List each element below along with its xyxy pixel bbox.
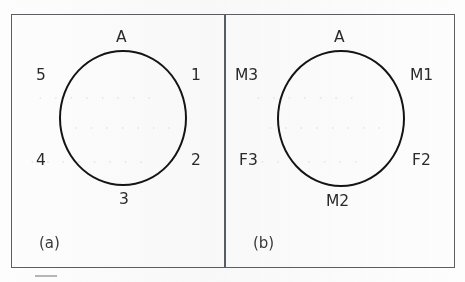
label-a-upper-right: 1 <box>191 68 201 84</box>
label-b-bottom: M2 <box>326 194 349 210</box>
label-a-upper-left: 5 <box>36 68 46 84</box>
label-a-lower-right: 2 <box>191 153 201 169</box>
panel-a: A 1 2 3 4 5 (a) <box>11 14 225 268</box>
label-b-lower-right: F2 <box>412 153 431 169</box>
label-a-lower-left: 4 <box>36 153 46 169</box>
circle-diagram-b <box>277 50 405 187</box>
circle-diagram-a <box>59 50 187 186</box>
label-b-upper-right: M1 <box>410 68 433 84</box>
label-a-top: A <box>116 30 127 46</box>
panel-caption-a: (a) <box>39 236 60 251</box>
panel-caption-b: (b) <box>253 236 274 251</box>
label-b-top: A <box>334 30 345 46</box>
stray-scan-mark <box>35 275 57 277</box>
panel-b: A M1 F2 M2 F3 M3 (b) <box>226 14 455 268</box>
label-a-bottom: 3 <box>119 192 129 208</box>
label-b-upper-left: M3 <box>235 68 258 84</box>
label-b-lower-left: F3 <box>239 153 258 169</box>
